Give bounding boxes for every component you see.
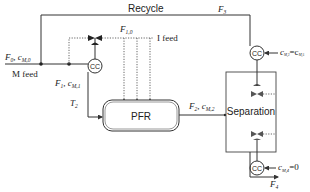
junction-dot — [39, 62, 43, 66]
m-feed-stream: F0, cM,0 M feed F1, cM,1 — [4, 52, 88, 89]
reactor-outlet-stream: F2, cM,2 — [179, 101, 226, 116]
reactor-inlet-stream: T2 — [70, 72, 102, 117]
process-flow-diagram: Recycle F3 F0, cM,0 M feed F1, cM,1 CC F… — [0, 0, 310, 192]
m-feed-label: M feed — [12, 69, 38, 79]
recycle-label: Recycle — [128, 3, 164, 14]
svg-text:CC: CC — [252, 165, 262, 172]
i-feed-label: I feed — [157, 33, 178, 43]
f1-c-m1-label: F1, cM,1 — [54, 78, 81, 89]
f3-label: F3 — [217, 4, 227, 15]
svg-text:CC: CC — [90, 63, 100, 70]
i-feed-valve-icon — [88, 35, 102, 45]
c-m3-c-m5-label: cM,3=cM,5 — [280, 47, 304, 58]
i-feed-stream: F1,0 I feed — [69, 24, 178, 101]
f10-label: F1,0 — [119, 24, 133, 35]
t2-label: T2 — [70, 98, 78, 109]
pfr-reactor: PFR — [103, 100, 179, 131]
pfr-label: PFR — [131, 111, 151, 122]
f2-c-m2-label: F2, cM,2 — [188, 101, 215, 112]
cc-feed-controller: CC — [88, 45, 102, 73]
f0-c-m0-label: F0, cM,0 — [4, 52, 31, 63]
separation-label: Separation — [227, 106, 275, 117]
f4-label: F4 — [269, 179, 279, 190]
recycle-stream: Recycle F3 — [41, 3, 250, 64]
svg-text:CC: CC — [252, 50, 262, 57]
separation-unit: Separation — [226, 72, 276, 152]
c-m4-label: cM,4=0 — [278, 162, 299, 174]
